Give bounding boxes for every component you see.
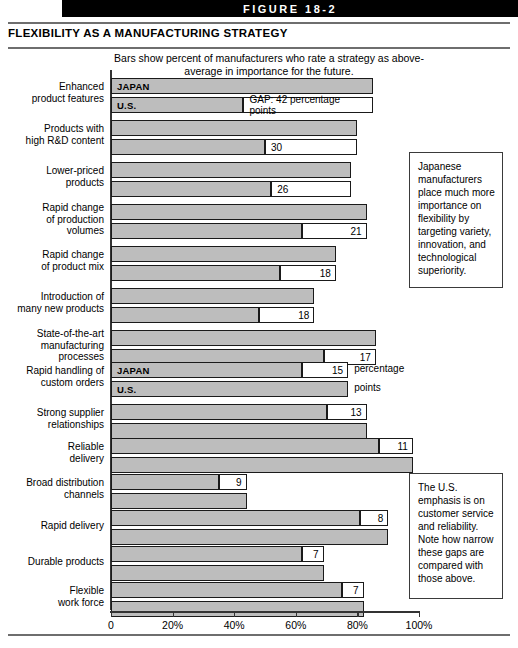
category-label: Reliabledelivery xyxy=(0,441,104,464)
bar-us xyxy=(111,529,388,545)
page-title: FLEXIBILITY AS A MANUFACTURING STRATEGY xyxy=(8,27,288,39)
bar-us xyxy=(111,223,302,239)
unit-note: percentagepoints xyxy=(354,363,404,394)
bar-japan xyxy=(111,120,357,136)
gap-label: 7 xyxy=(342,582,364,598)
unit-note-line1: percentage xyxy=(354,363,404,375)
x-tick xyxy=(173,611,174,617)
bar-us: U.S. xyxy=(111,381,348,397)
x-tick xyxy=(296,611,297,617)
category-label-line: Introduction of xyxy=(0,291,104,303)
category-label-line: channels xyxy=(0,489,104,501)
gap-label: 7 xyxy=(302,546,324,562)
x-tick-label: 40% xyxy=(224,619,245,631)
bar-japan xyxy=(111,330,376,346)
category-label-line: delivery xyxy=(0,453,104,465)
bar-japan xyxy=(111,288,314,304)
bar-us: U.S. xyxy=(111,97,243,113)
category-label-line: Rapid handling of xyxy=(0,365,104,377)
bar-group: Reliabledelivery11 xyxy=(111,438,419,473)
category-label: Lower-pricedproducts xyxy=(0,165,104,188)
category-label: Broad distributionchannels xyxy=(0,477,104,500)
divider-under-title xyxy=(8,47,510,49)
bar-us xyxy=(111,139,265,155)
gap-label: 13 xyxy=(327,404,367,420)
bar-japan xyxy=(111,204,367,220)
category-label-line: of product mix xyxy=(0,261,104,273)
bar-us xyxy=(111,565,324,581)
bar-group: Lower-pricedproducts26 xyxy=(111,162,419,197)
category-label: Flexiblework force xyxy=(0,585,104,608)
gap-label: 21 xyxy=(302,223,367,239)
x-tick-label: 100% xyxy=(406,619,433,631)
category-label-line: Enhanced xyxy=(0,81,104,93)
category-label-line: volumes xyxy=(0,225,104,237)
bar-japan xyxy=(111,546,302,562)
bar-japan xyxy=(111,510,360,526)
series-label-us: U.S. xyxy=(117,384,136,395)
category-label-line: Reliable xyxy=(0,441,104,453)
bar-group: Rapid delivery8 xyxy=(111,510,419,545)
category-label: Products withhigh R&D content xyxy=(0,123,104,146)
bar-us xyxy=(111,307,259,323)
unit-note-line2: points xyxy=(354,382,404,394)
gap-label: GAP: 42 percentage points xyxy=(243,97,372,113)
x-tick-label: 20% xyxy=(162,619,183,631)
bar-group: Strong supplierrelationships13 xyxy=(111,404,419,439)
category-label: State-of-the-artmanufacturingprocesses xyxy=(0,328,104,363)
gap-label: 18 xyxy=(259,307,314,323)
category-label-line: manufacturing xyxy=(0,340,104,352)
bar-group: Rapid handling ofcustom ordersJAPANU.S.1… xyxy=(111,362,419,397)
bar-japan xyxy=(111,246,336,262)
bar-us xyxy=(111,181,271,197)
bar-japan xyxy=(111,404,327,420)
category-label-line: product features xyxy=(0,93,104,105)
x-tick-label: 80% xyxy=(347,619,368,631)
category-label-line: Flexible xyxy=(0,585,104,597)
category-label-line: relationships xyxy=(0,419,104,431)
x-tick xyxy=(234,611,235,617)
category-label: Rapid changeof productionvolumes xyxy=(0,202,104,237)
bar-japan xyxy=(111,438,379,454)
gap-label: 26 xyxy=(271,181,351,197)
category-label-line: custom orders xyxy=(0,377,104,389)
x-tick xyxy=(357,611,358,617)
category-label-line: products xyxy=(0,177,104,189)
category-label-line: of production xyxy=(0,214,104,226)
category-label-line: Lower-priced xyxy=(0,165,104,177)
figure-banner: FIGURE 18-2 xyxy=(62,0,518,17)
category-label-line: Broad distribution xyxy=(0,477,104,489)
plot-area: Enhancedproduct featuresJAPANU.S.GAP: 42… xyxy=(111,70,419,610)
bar-group: Products withhigh R&D content30 xyxy=(111,120,419,155)
series-label-japan: JAPAN xyxy=(117,365,150,376)
divider-top xyxy=(8,22,510,24)
gap-label: 8 xyxy=(360,510,388,526)
bar-us xyxy=(111,493,247,509)
category-label-line: Durable products xyxy=(0,556,104,568)
bar-group: Introduction ofmany new products18 xyxy=(111,288,419,323)
x-tick-label: 60% xyxy=(285,619,306,631)
bar-group: Durable products7 xyxy=(111,546,419,581)
category-label-line: Rapid change xyxy=(0,202,104,214)
category-label-line: State-of-the-art xyxy=(0,328,104,340)
series-label-japan: JAPAN xyxy=(117,81,150,92)
gap-label: 11 xyxy=(379,438,413,454)
x-tick xyxy=(111,611,112,617)
bar-us xyxy=(111,265,280,281)
bar-japan xyxy=(111,162,351,178)
bar-group: Rapid changeof productionvolumes21 xyxy=(111,204,419,239)
x-tick-label: 0 xyxy=(108,619,114,631)
category-label: Strong supplierrelationships xyxy=(0,407,104,430)
category-label-line: Products with xyxy=(0,123,104,135)
category-label-line: Strong supplier xyxy=(0,407,104,419)
bar-group: Rapid changeof product mix18 xyxy=(111,246,419,281)
category-label: Introduction ofmany new products xyxy=(0,291,104,314)
bar-us xyxy=(111,601,364,617)
category-label-line: work force xyxy=(0,597,104,609)
figure-banner-label: FIGURE 18-2 xyxy=(243,3,337,15)
divider-bottom xyxy=(8,634,510,636)
category-label: Durable products xyxy=(0,556,104,568)
gap-label: 15 xyxy=(302,362,348,378)
bar-us xyxy=(111,457,413,473)
us-callout: The U.S. emphasis is on customer service… xyxy=(409,473,503,599)
